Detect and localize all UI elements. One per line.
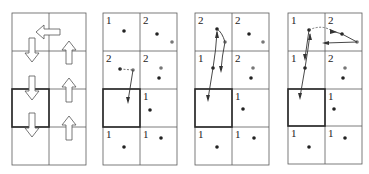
trajectory-path bbox=[128, 70, 133, 101]
cell-count: 2 bbox=[143, 14, 149, 26]
trajectory-path bbox=[221, 42, 225, 70]
panel-2-highlight-cell bbox=[103, 89, 140, 127]
arrow-up-icon bbox=[62, 41, 76, 64]
particle-dot bbox=[261, 40, 265, 44]
particle-dot bbox=[307, 145, 311, 149]
arrowhead-icon bbox=[126, 97, 130, 104]
arrow-down-icon bbox=[25, 38, 39, 62]
particle-dot bbox=[249, 76, 253, 80]
particle-dot bbox=[252, 136, 256, 140]
arrowhead-icon bbox=[330, 29, 337, 34]
particle-dot bbox=[159, 136, 163, 140]
panel-2: 1 2 2 2 1 1 1 bbox=[103, 13, 177, 165]
panel-3-highlight-cell bbox=[195, 89, 232, 127]
particle-dot bbox=[122, 145, 126, 149]
particle-dot bbox=[157, 76, 161, 80]
trajectory-path bbox=[309, 27, 332, 31]
particle-dot bbox=[343, 66, 347, 70]
cell-count: 2 bbox=[198, 14, 204, 26]
trajectory-path bbox=[208, 68, 213, 99]
cell-count: 1 bbox=[328, 127, 334, 139]
panel-3: 2 2 1 2 1 1 1 bbox=[195, 13, 269, 165]
cell-count: 1 bbox=[235, 128, 241, 140]
cell-count: 1 bbox=[198, 52, 204, 64]
cell-count: 1 bbox=[143, 90, 149, 102]
diagram-canvas: 1 2 2 2 1 1 1 2 2 1 2 1 1 1 bbox=[0, 0, 369, 174]
particle-dot bbox=[148, 108, 152, 112]
particle-dot bbox=[170, 40, 174, 44]
panel-1 bbox=[12, 13, 86, 165]
particle-dot bbox=[332, 107, 336, 111]
trajectory-path bbox=[120, 69, 133, 70]
trajectory-path bbox=[342, 34, 357, 42]
cell-count: 2 bbox=[106, 52, 112, 64]
cell-count: 2 bbox=[143, 52, 149, 64]
arrow-down-icon bbox=[25, 113, 39, 137]
cell-count: 1 bbox=[106, 128, 112, 140]
cell-count: 2 bbox=[235, 14, 241, 26]
cell-count: 2 bbox=[235, 52, 241, 64]
arrow-down-icon bbox=[25, 76, 39, 100]
cell-count: 1 bbox=[291, 14, 297, 26]
cell-count: 1 bbox=[291, 127, 297, 139]
particle-dot bbox=[241, 107, 245, 111]
particle-dot bbox=[343, 136, 347, 140]
trajectory-path bbox=[325, 42, 357, 43]
particle-dot bbox=[159, 66, 163, 70]
cell-count: 1 bbox=[106, 14, 112, 26]
cell-count: 1 bbox=[235, 90, 241, 102]
particle-dot bbox=[155, 32, 159, 36]
cell-count: 1 bbox=[328, 90, 334, 102]
cell-count: 1 bbox=[143, 128, 149, 140]
particle-dot bbox=[215, 145, 219, 149]
arrowhead-icon bbox=[219, 66, 223, 73]
trajectory-path bbox=[300, 68, 305, 97]
arrow-up-icon bbox=[62, 78, 76, 102]
cell-count: 2 bbox=[328, 14, 334, 26]
particle-dot bbox=[247, 32, 251, 36]
cell-count: 1 bbox=[198, 128, 204, 140]
arrowhead-icon bbox=[206, 95, 210, 102]
panel-4-highlight-cell bbox=[288, 89, 325, 126]
arrowhead-icon bbox=[215, 30, 219, 38]
particle-dot bbox=[122, 29, 126, 33]
arrow-up-icon bbox=[62, 116, 76, 140]
cell-count: 1 bbox=[291, 52, 297, 64]
panel-4: 1 2 1 2 1 1 1 bbox=[288, 13, 362, 164]
particle-dot bbox=[251, 66, 255, 70]
arrowhead-icon bbox=[298, 93, 302, 100]
particle-dot bbox=[341, 76, 345, 80]
arrowhead-icon bbox=[322, 41, 329, 45]
cell-count: 2 bbox=[328, 52, 334, 64]
arrow-left-icon bbox=[36, 25, 60, 39]
